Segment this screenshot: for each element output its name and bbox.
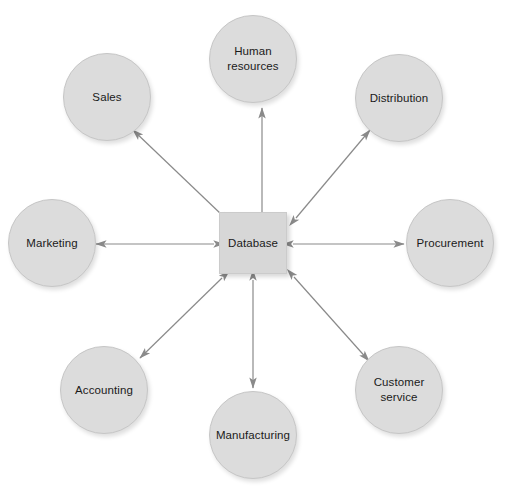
node-label: Manufacturing <box>216 428 290 443</box>
node-label: Human resources <box>227 44 278 73</box>
node-procurement[interactable]: Procurement <box>406 199 494 287</box>
hub-spoke-diagram: DatabaseHuman resourcesDistributionProcu… <box>0 0 506 496</box>
edge-database-accounting <box>140 278 222 358</box>
node-accounting[interactable]: Accounting <box>60 346 148 434</box>
node-marketing[interactable]: Marketing <box>8 199 96 287</box>
node-label: Customer service <box>374 375 425 404</box>
edge-database-customer-service <box>294 277 369 361</box>
node-label: Distribution <box>370 91 429 106</box>
node-customer-service[interactable]: Customer service <box>355 346 443 434</box>
node-label: Marketing <box>26 236 77 251</box>
node-label: Sales <box>92 90 121 105</box>
node-label: Accounting <box>75 383 133 398</box>
edge-database-distribution <box>296 130 370 218</box>
node-sales[interactable]: Sales <box>63 53 151 141</box>
edge-database-sales <box>133 130 222 215</box>
node-database[interactable]: Database <box>219 212 287 274</box>
node-human-resources[interactable]: Human resources <box>209 15 297 103</box>
node-distribution[interactable]: Distribution <box>355 54 443 142</box>
node-label: Procurement <box>417 236 484 251</box>
node-label: Database <box>228 236 278 251</box>
node-manufacturing[interactable]: Manufacturing <box>209 391 297 479</box>
